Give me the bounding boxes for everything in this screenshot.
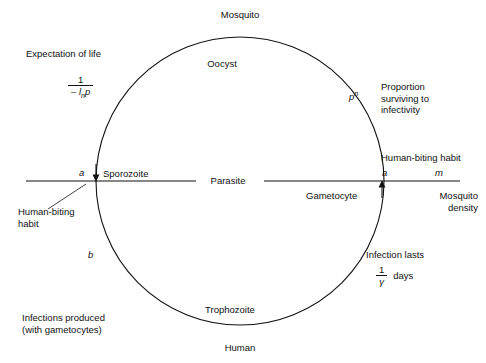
- label-human-biting-habit-right: Human-biting habit: [381, 152, 461, 164]
- label-proportion-surviving: Proportionsurviving toinfectivity: [381, 81, 429, 116]
- transmission-cycle-diagram: Mosquito Oocyst Parasite Sporozoite Game…: [0, 0, 486, 363]
- label-infections-produced: Infections produced(with gametocytes): [22, 312, 105, 335]
- label-biting-rate-symbol-left: a: [79, 167, 84, 179]
- proportion-line3: infectivity: [381, 104, 420, 115]
- survival-symbol-exponent: n: [354, 90, 358, 97]
- label-parasite: Parasite: [211, 175, 246, 187]
- infection-duration-unit: days: [393, 270, 413, 281]
- label-infectivity-symbol-b: b: [88, 249, 93, 261]
- infections-produced-line1: Infections produced: [22, 312, 105, 323]
- label-gametocyte: Gametocyte: [306, 190, 357, 202]
- label-expectation-of-life: Expectation of life: [26, 48, 101, 60]
- expectation-fraction-numerator: 1: [68, 74, 93, 86]
- infections-produced-line2: (with gametocytes): [22, 324, 102, 335]
- proportion-line1: Proportion: [381, 81, 425, 92]
- label-human: Human: [225, 342, 256, 354]
- expectation-fraction-denominator-prefix: – l: [71, 86, 81, 97]
- mosquito-density-line2: density: [448, 202, 478, 213]
- proportion-line2: surviving to: [381, 93, 429, 104]
- label-human-biting-habit-left: Human-bitinghabit: [18, 206, 75, 229]
- label-mosquito: Mosquito: [221, 9, 260, 21]
- human-biting-habit-left-line2: habit: [18, 218, 39, 229]
- label-mosquito-density: Mosquitodensity: [439, 190, 478, 213]
- expectation-of-life-fraction: 1 – lnp: [68, 74, 93, 101]
- label-trophozoite: Trophozoite: [205, 304, 255, 316]
- expectation-fraction-denominator: – lnp: [68, 86, 93, 101]
- label-mosquito-density-symbol-m: m: [435, 167, 443, 179]
- human-biting-habit-left-line1: Human-biting: [18, 206, 75, 217]
- label-oocyst: Oocyst: [207, 58, 237, 70]
- expectation-fraction-denominator-suffix: p: [85, 86, 90, 97]
- infection-duration-row: 1 γ days: [376, 264, 413, 287]
- label-sporozoite: Sporozoite: [103, 168, 148, 180]
- label-infection-lasts: Infection lasts: [366, 249, 424, 261]
- label-survival-symbol-p-n: pn: [349, 88, 358, 103]
- infection-duration-denominator: γ: [376, 276, 387, 287]
- infection-duration-fraction: 1 γ: [376, 264, 387, 287]
- infection-duration-numerator: 1: [376, 264, 387, 276]
- mosquito-density-line1: Mosquito: [439, 190, 478, 201]
- label-biting-rate-symbol-right: a: [382, 167, 387, 179]
